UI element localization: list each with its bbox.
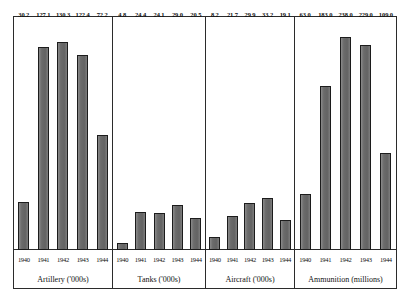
bar-value-label: 130.3 <box>56 11 70 19</box>
bar-value-label: 19.1 <box>280 11 291 19</box>
figure-frame: 30.2 127.1 130.3 122.4 <box>13 16 397 289</box>
bar-slot: 183.0 <box>315 19 335 250</box>
tick-label-1943: 1943 <box>259 255 277 264</box>
tick-row-tanks: 1940 1941 1942 1943 1944 <box>113 250 205 269</box>
bar-value-label: 229.0 <box>359 11 373 19</box>
bar-slot: 30.2 <box>14 19 34 250</box>
bar-slot: 63.0 <box>295 19 315 250</box>
tick-label-1940: 1940 <box>295 255 315 264</box>
plot-area-tanks: 4.8 24.4 24.1 29.0 <box>113 19 205 250</box>
tick-label-1940: 1940 <box>206 255 224 264</box>
bar-value-label: 8.2 <box>211 11 219 19</box>
bar-slot: 127.1 <box>34 19 54 250</box>
tick-label-1941: 1941 <box>131 255 149 264</box>
bar-slot: 229.0 <box>356 19 376 250</box>
bar-value-label: 20.5 <box>190 11 201 19</box>
bar-slot: 8.2 <box>206 19 224 250</box>
bar-rect[interactable] <box>77 55 88 250</box>
bar-value-label: 24.1 <box>154 11 165 19</box>
bar-rect[interactable] <box>117 243 128 250</box>
panel-caption-ammunition: Ammunition (millions) <box>295 274 396 285</box>
tick-label-1940: 1940 <box>14 255 34 264</box>
bar-rect[interactable] <box>340 37 351 250</box>
tick-label-1942: 1942 <box>53 255 73 264</box>
bar-slot: 21.7 <box>224 19 242 250</box>
panel-tanks: 4.8 24.4 24.1 29.0 <box>113 17 205 288</box>
bar-slot: 29.9 <box>241 19 259 250</box>
bar-value-label: 109.0 <box>379 11 393 19</box>
bar-value-label: 127.1 <box>36 11 50 19</box>
panel-artillery: 30.2 127.1 130.3 122.4 <box>14 17 112 288</box>
bar-value-label: 4.8 <box>118 11 126 19</box>
tick-label-1944: 1944 <box>92 255 112 264</box>
bar-value-label: 33.2 <box>262 11 273 19</box>
bar-rect[interactable] <box>227 216 238 250</box>
tick-row-artillery: 1940 1941 1942 1943 1944 <box>14 250 112 269</box>
bar-rect[interactable] <box>280 220 291 250</box>
bar-value-label: 29.0 <box>172 11 183 19</box>
bar-value-label: 238.0 <box>338 11 352 19</box>
bar-rect[interactable] <box>320 86 331 250</box>
bar-rect[interactable] <box>300 194 311 250</box>
bar-slot: 130.3 <box>53 19 73 250</box>
tick-label-1942: 1942 <box>241 255 259 264</box>
tick-label-1943: 1943 <box>356 255 376 264</box>
bar-rect[interactable] <box>209 237 220 250</box>
bar-slot: 72.2 <box>92 19 112 250</box>
bar-group-ammunition: 63.0 183.0 238.0 229.0 <box>295 19 396 250</box>
bar-value-label: 30.2 <box>18 11 29 19</box>
bar-rect[interactable] <box>97 135 108 250</box>
bar-rect[interactable] <box>244 203 255 250</box>
bar-group-aircraft: 8.2 21.7 29.9 33.2 <box>206 19 294 250</box>
bar-value-label: 29.9 <box>244 11 255 19</box>
plot-area-aircraft: 8.2 21.7 29.9 33.2 <box>206 19 294 250</box>
bar-rect[interactable] <box>172 205 183 250</box>
panel-caption-aircraft: Aircraft ('000s) <box>206 274 294 285</box>
panel-ammunition: 63.0 183.0 238.0 229.0 <box>295 17 396 288</box>
bar-group-tanks: 4.8 24.4 24.1 29.0 <box>113 19 205 250</box>
chart-root: 30.2 127.1 130.3 122.4 <box>0 0 409 302</box>
bar-value-label: 183.0 <box>318 11 332 19</box>
tick-label-1943: 1943 <box>73 255 93 264</box>
bar-rect[interactable] <box>135 212 146 250</box>
bar-slot: 24.4 <box>131 19 149 250</box>
bar-value-label: 21.7 <box>227 11 238 19</box>
tick-label-1944: 1944 <box>187 255 205 264</box>
bar-slot: 33.2 <box>259 19 277 250</box>
tick-label-1941: 1941 <box>315 255 335 264</box>
bar-value-label: 122.4 <box>76 11 90 19</box>
tick-label-1942: 1942 <box>335 255 355 264</box>
tick-row-aircraft: 1940 1941 1942 1943 1944 <box>206 250 294 269</box>
tick-row-ammunition: 1940 1941 1942 1943 1944 <box>295 250 396 269</box>
bar-value-label: 63.0 <box>300 11 311 19</box>
bar-value-label: 72.2 <box>97 11 108 19</box>
tick-label-1941: 1941 <box>224 255 242 264</box>
tick-label-1944: 1944 <box>376 255 396 264</box>
tick-label-1944: 1944 <box>276 255 294 264</box>
bar-slot: 109.0 <box>376 19 396 250</box>
bar-rect[interactable] <box>154 213 165 250</box>
bar-slot: 20.5 <box>187 19 205 250</box>
bar-rect[interactable] <box>380 153 391 250</box>
tick-label-1941: 1941 <box>34 255 54 264</box>
bar-group-artillery: 30.2 127.1 130.3 122.4 <box>14 19 112 250</box>
bar-slot: 19.1 <box>276 19 294 250</box>
bar-slot: 4.8 <box>113 19 131 250</box>
tick-label-1942: 1942 <box>150 255 168 264</box>
plot-area-ammunition: 63.0 183.0 238.0 229.0 <box>295 19 396 250</box>
bar-slot: 122.4 <box>73 19 93 250</box>
bar-rect[interactable] <box>18 202 29 250</box>
tick-label-1943: 1943 <box>168 255 186 264</box>
bar-slot: 238.0 <box>335 19 355 250</box>
bar-value-label: 24.4 <box>135 11 146 19</box>
panel-caption-tanks: Tanks ('000s) <box>113 274 205 285</box>
tick-label-1940: 1940 <box>113 255 131 264</box>
bar-rect[interactable] <box>190 218 201 250</box>
bar-rect[interactable] <box>262 198 273 250</box>
bar-rect[interactable] <box>360 45 371 250</box>
bar-rect[interactable] <box>57 42 68 250</box>
bar-slot: 29.0 <box>168 19 186 250</box>
plot-area-artillery: 30.2 127.1 130.3 122.4 <box>14 19 112 250</box>
bar-rect[interactable] <box>38 47 49 250</box>
bar-slot: 24.1 <box>150 19 168 250</box>
